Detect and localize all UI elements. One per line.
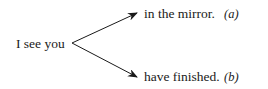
branch-b-text: have finished. [144,70,220,84]
branch-a-label: (a) [224,8,239,21]
arrow-to-b [72,43,137,77]
branch-a-text: in the mirror. [144,7,215,21]
source-phrase: I see you [16,37,65,51]
branch-b-label: (b) [224,71,239,84]
arrow-to-a [72,13,137,43]
